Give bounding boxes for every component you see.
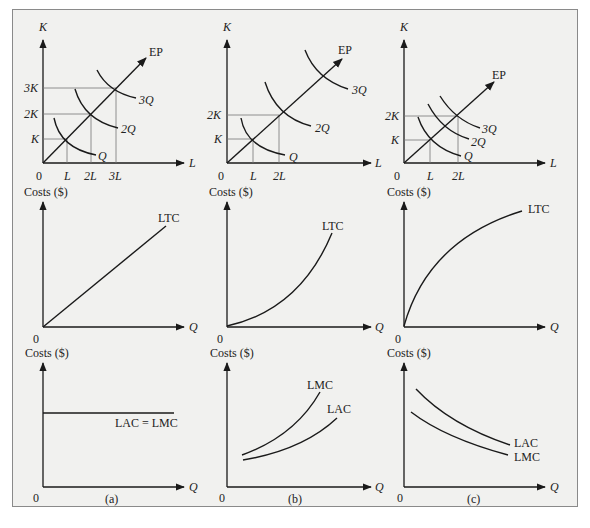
q-axis-label: Q <box>189 480 198 494</box>
panel-a: K L 0 EP Q 2Q 3Q K 2K 3K L 2L 3L Costs (… <box>23 20 198 506</box>
lac-curve <box>416 389 510 445</box>
expansion-path-line <box>227 59 342 163</box>
lac-label: LAC <box>514 436 538 450</box>
caption-a: (a) <box>105 492 118 506</box>
ltc-curve <box>43 226 166 327</box>
k-tick-1: K <box>30 132 40 146</box>
l-axis-label: L <box>549 156 557 170</box>
ltc-curve <box>227 233 332 326</box>
panel-b-isoquant-map: K L 0 EP Q 2Q 3Q K 2K L 2L <box>207 20 382 183</box>
l-axis-label: L <box>188 156 196 170</box>
isoquant-q-label: Q <box>464 149 473 163</box>
origin-label: 0 <box>218 169 224 183</box>
isoquant-q <box>54 118 96 155</box>
k-axis-label: K <box>38 20 48 34</box>
k-axis-label: K <box>222 20 232 34</box>
isoquant-2q-label: 2Q <box>121 122 136 136</box>
panel-a-unit-cost-chart: Costs ($) Q 0 LAC = LMC (a) <box>25 346 198 506</box>
l-tick-3: 3L <box>108 169 122 183</box>
l-tick-2: 2L <box>84 169 97 183</box>
costs-axis-label: Costs ($) <box>209 185 253 199</box>
l-tick-2: 2L <box>273 169 286 183</box>
isoquant-3q-label: 3Q <box>138 93 154 107</box>
q-axis-label: Q <box>189 320 198 334</box>
panel-c-ltc-chart: Costs ($) Q 0 LTC <box>387 185 559 346</box>
k-tick-3: 3K <box>23 81 39 95</box>
expansion-path-line <box>43 58 146 163</box>
q-axis-label: Q <box>550 320 559 334</box>
ltc-label: LTC <box>528 202 550 216</box>
origin-label: 0 <box>36 169 42 183</box>
expansion-path-line <box>404 82 494 163</box>
k-tick-1: K <box>390 133 400 147</box>
isoquant-q <box>241 118 285 155</box>
isoquant-3q-label: 3Q <box>351 83 367 97</box>
lmc-label: LMC <box>307 378 333 392</box>
caption-c: (c) <box>467 492 480 506</box>
isoquant-2q-label: 2Q <box>315 121 330 135</box>
isoquant-q-label: Q <box>98 149 107 163</box>
expansion-path-label: EP <box>492 68 506 82</box>
origin-label: 0 <box>395 332 401 346</box>
l-tick-1: L <box>426 169 434 183</box>
costs-axis-label: Costs ($) <box>25 346 69 360</box>
lmc-label: LMC <box>514 450 540 464</box>
costs-axis-label: Costs ($) <box>387 185 431 199</box>
isoquant-2q-label: 2Q <box>471 135 486 149</box>
ltc-label: LTC <box>158 211 180 225</box>
k-tick-2: 2K <box>24 107 39 121</box>
lmc-curve <box>411 412 508 455</box>
q-axis-label: Q <box>375 480 384 494</box>
origin-label: 0 <box>219 491 225 505</box>
k-axis-label: K <box>399 20 409 34</box>
origin-label: 0 <box>33 332 39 346</box>
lmc-curve <box>242 392 320 455</box>
q-axis-label: Q <box>550 480 559 494</box>
panel-c-unit-cost-chart: Costs ($) Q 0 LAC LMC (c) <box>387 346 559 506</box>
panel-c: K L 0 EP Q 2Q 3Q K 2K L 2L Costs ($) Q 0… <box>385 20 559 506</box>
k-tick-2: 2K <box>207 108 222 122</box>
isoquant-q <box>418 117 461 156</box>
k-tick-2: 2K <box>385 109 400 123</box>
ltc-curve <box>404 211 522 326</box>
expansion-path-label: EP <box>338 43 352 57</box>
l-tick-1: L <box>249 169 257 183</box>
k-tick-1: K <box>213 132 223 146</box>
l-tick-2: 2L <box>452 169 465 183</box>
panel-a-ltc-chart: Costs ($) Q 0 LTC <box>24 185 198 346</box>
lac-lmc-label: LAC = LMC <box>115 416 178 430</box>
origin-label: 0 <box>397 491 403 505</box>
lac-curve <box>243 418 337 460</box>
costs-axis-label: Costs ($) <box>24 185 68 199</box>
panel-c-isoquant-map: K L 0 EP Q 2Q 3Q K 2K L 2L <box>385 20 557 183</box>
panel-b: K L 0 EP Q 2Q 3Q K 2K L 2L Costs ($) Q 0… <box>207 20 384 506</box>
panel-a-isoquant-map: K L 0 EP Q 2Q 3Q K 2K 3K L 2L 3L <box>23 20 196 183</box>
panel-b-ltc-chart: Costs ($) Q 0 LTC <box>209 185 384 346</box>
panel-b-unit-cost-chart: Costs ($) Q 0 LMC LAC (b) <box>210 346 384 506</box>
ltc-label: LTC <box>322 219 344 233</box>
lac-label: LAC <box>327 402 351 416</box>
figure-canvas: K L 0 EP Q 2Q 3Q K 2K 3K L 2L 3L Costs (… <box>0 0 590 528</box>
isoquant-3q-label: 3Q <box>481 122 497 136</box>
l-axis-label: L <box>374 156 382 170</box>
expansion-path-label: EP <box>149 45 163 59</box>
costs-axis-label: Costs ($) <box>387 346 431 360</box>
origin-label: 0 <box>217 332 223 346</box>
l-tick-1: L <box>63 169 71 183</box>
q-axis-label: Q <box>375 320 384 334</box>
caption-b: (b) <box>288 492 302 506</box>
isoquant-q-label: Q <box>289 150 298 164</box>
origin-label: 0 <box>33 491 39 505</box>
costs-axis-label: Costs ($) <box>210 346 254 360</box>
origin-label: 0 <box>394 169 400 183</box>
isoquant-2q <box>265 82 311 126</box>
